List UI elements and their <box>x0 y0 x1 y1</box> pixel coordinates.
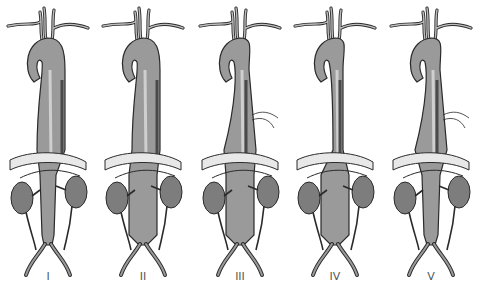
right-kidney <box>160 176 182 208</box>
left-kidney <box>203 182 225 214</box>
right-kidney <box>448 176 470 208</box>
panel-type-4: IV <box>287 0 383 291</box>
type-label: I <box>0 270 96 283</box>
panel-type-5: V <box>383 0 479 291</box>
left-kidney <box>106 182 128 214</box>
panel-type-2: II <box>95 0 191 291</box>
right-kidney <box>65 176 87 208</box>
aorta-illustration <box>383 0 479 291</box>
left-kidney <box>394 182 416 214</box>
panel-type-1: I <box>0 0 96 291</box>
type-label: IV <box>287 270 383 283</box>
left-kidney <box>11 182 33 214</box>
right-kidney <box>352 176 374 208</box>
left-kidney <box>298 182 320 214</box>
type-label: II <box>95 270 191 283</box>
aorta-illustration <box>95 0 191 291</box>
type-label: V <box>383 270 479 283</box>
aorta-illustration <box>287 0 383 291</box>
right-kidney <box>257 176 279 208</box>
aorta-illustration <box>192 0 288 291</box>
type-label: III <box>192 270 288 283</box>
panel-type-3: III <box>192 0 288 291</box>
aorta-illustration <box>0 0 96 291</box>
